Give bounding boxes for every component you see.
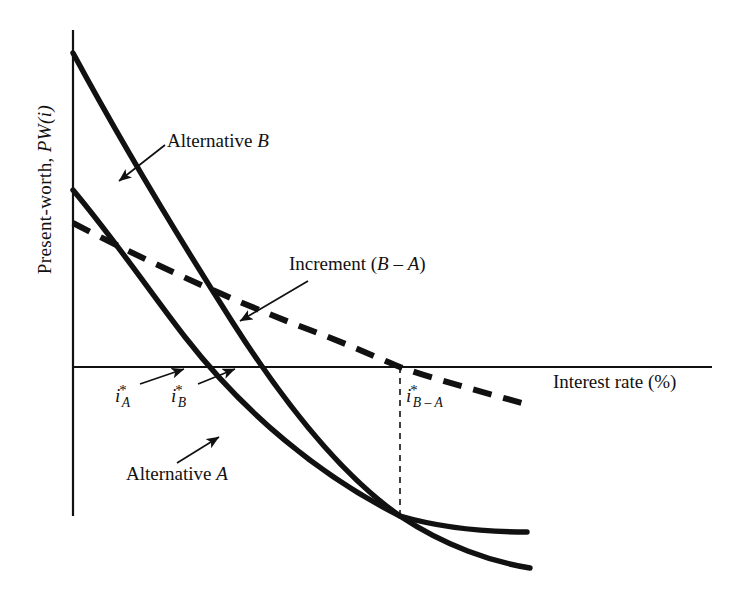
annotation-increment-dash: – (389, 253, 408, 274)
curve-increment-b-minus-a (73, 223, 522, 403)
leader-alternative-a (177, 437, 219, 463)
y-axis-label: Present-worth, PW(i) (35, 90, 54, 290)
annotation-alternative-b-prefix: Alternative (167, 130, 257, 151)
y-axis-label-prefix: Present-worth, (34, 152, 55, 274)
annotation-increment-math-b: B (377, 253, 389, 274)
annotation-increment-prefix: Increment ( (289, 253, 377, 274)
annotation-i-star-b-minus-a: i*B – A (406, 386, 443, 405)
annotation-i-star-b: i*B (171, 386, 186, 405)
annotation-i-star-a: i*A (115, 386, 130, 405)
figure-container: Present-worth, PW(i) Interest rate (%) A… (0, 0, 745, 603)
annotation-increment: Increment (B – A) (289, 254, 426, 273)
annotation-alternative-b: Alternative B (167, 131, 269, 150)
annotation-alternative-a-prefix: Alternative (126, 463, 216, 484)
y-axis-label-math: PW(i) (34, 105, 55, 152)
i-star-b-subscript: B (178, 395, 186, 410)
x-axis-label: Interest rate (%) (553, 372, 676, 391)
annotation-increment-math-a: A (408, 253, 420, 274)
i-star-b-minus-a-subscript: B – A (413, 395, 443, 410)
curve-alternative-b (73, 53, 530, 568)
annotation-alternative-b-math: B (257, 130, 269, 151)
annotation-alternative-a: Alternative A (126, 464, 228, 483)
plot-canvas (0, 0, 745, 603)
annotation-increment-suffix: ) (419, 253, 425, 274)
annotation-alternative-a-math: A (216, 463, 228, 484)
i-star-a-subscript: A (122, 395, 130, 410)
